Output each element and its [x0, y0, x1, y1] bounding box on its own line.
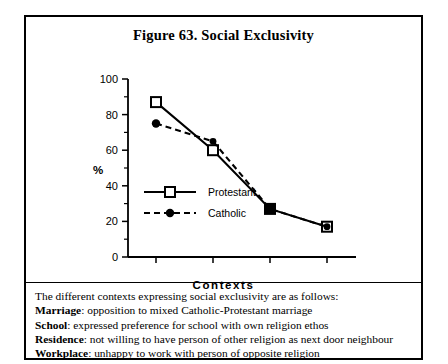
caption-term: Residence	[35, 333, 84, 345]
caption-entry-marriage: Marriage: opposition to mixed Catholic-P…	[35, 303, 420, 317]
caption-entry-workplace: Workplace: unhappy to work with person o…	[35, 346, 420, 360]
legend-entry-catholic: Catholic	[144, 207, 246, 219]
caption-term: School	[35, 319, 67, 331]
legend-label-protestant: Protestant	[208, 186, 256, 198]
chart-region: 100 80 60 40 20 0 %	[26, 49, 421, 264]
y-tick-label: 20	[106, 215, 118, 227]
y-tick-label: 40	[106, 180, 118, 192]
y-tick-label: 60	[106, 144, 118, 156]
chart-legend: Protestant Catholic	[144, 186, 256, 219]
caption-term: Marriage	[35, 304, 81, 316]
caption-term: Workplace	[35, 347, 88, 359]
legend-entry-protestant: Protestant	[144, 186, 256, 198]
y-tick-label: 80	[106, 109, 118, 121]
y-tick-label: 100	[100, 73, 118, 85]
caption-text: : expressed preference for school with o…	[67, 319, 328, 331]
legend-label-catholic: Catholic	[208, 207, 246, 219]
figure-frame: Figure 63. Social Exclusivity	[24, 15, 423, 360]
caption-entry-school: School: expressed preference for school …	[35, 318, 420, 332]
caption-intro: The different contexts expressing social…	[35, 289, 420, 303]
caption-block: The different contexts expressing social…	[35, 289, 420, 360]
figure-title: Figure 63. Social Exclusivity	[26, 27, 421, 44]
y-axis-title: %	[93, 164, 103, 176]
caption-entry-residence: Residence: not willing to have person of…	[35, 332, 420, 346]
caption-divider	[26, 282, 421, 283]
line-chart: 100 80 60 40 20 0 %	[26, 49, 421, 264]
y-tick-label: 0	[112, 251, 118, 263]
caption-text: : unhappy to work with person of opposit…	[88, 347, 320, 359]
caption-text: : opposition to mixed Catholic-Protestan…	[81, 304, 312, 316]
caption-text: : not willing to have person of other re…	[84, 333, 393, 345]
